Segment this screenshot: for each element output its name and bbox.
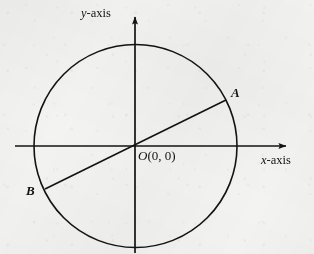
- origin-label-coordinates: (0, 0): [147, 148, 175, 163]
- origin-label-variable: O: [138, 148, 147, 163]
- x-axis-label-suffix: -axis: [267, 153, 291, 167]
- y-axis-label-suffix: -axis: [87, 6, 111, 20]
- y-axis-label: y-axis: [81, 7, 111, 20]
- diagram-canvas: [0, 0, 314, 254]
- x-axis-label: x-axis: [261, 154, 291, 167]
- point-a-label: A: [231, 86, 240, 99]
- geometry-figure: y-axis x-axis A B O(0, 0): [0, 0, 314, 254]
- point-b-label: B: [26, 184, 35, 197]
- origin-label: O(0, 0): [138, 149, 176, 162]
